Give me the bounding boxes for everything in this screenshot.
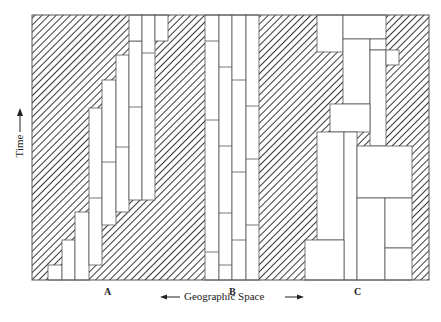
- left-arrow-icon: [160, 295, 180, 300]
- cell-region-a: [62, 240, 75, 280]
- cell-region-c: [357, 146, 412, 198]
- cell-region-a: [129, 41, 142, 200]
- cell-region-c: [343, 39, 370, 104]
- cell-region-a: [155, 15, 168, 41]
- y-axis-label: Time: [13, 131, 25, 161]
- cell-region-c: [370, 50, 386, 146]
- cell-region-a: [89, 108, 102, 265]
- diagram-canvas: [0, 0, 441, 322]
- cell-region-c: [357, 198, 385, 280]
- cell-region-c: [330, 104, 370, 132]
- cell-region-a: [75, 212, 89, 280]
- time-arrow-icon: [17, 108, 23, 132]
- right-arrow-icon: [285, 295, 304, 300]
- cell-region-a: [142, 15, 155, 200]
- cell-region-c: [305, 240, 344, 280]
- cell-region-c: [343, 15, 386, 39]
- cell-region-c: [317, 132, 344, 240]
- cell-region-b: [246, 15, 259, 280]
- cell-region-a: [48, 265, 62, 280]
- x-axis-label: Geographic Space: [184, 290, 264, 302]
- cell-region-c: [385, 198, 412, 248]
- cell-region-a: [129, 15, 142, 41]
- cell-region-c: [385, 248, 412, 280]
- cell-region-c: [386, 50, 399, 65]
- cell-region-c: [344, 132, 357, 280]
- cell-region-b: [205, 15, 219, 280]
- cell-region-c: [317, 15, 343, 52]
- cell-region-b: [219, 15, 232, 280]
- region-label-c: C: [354, 286, 361, 297]
- cell-region-a: [116, 55, 129, 212]
- region-label-a: A: [104, 286, 111, 297]
- cell-region-c: [370, 39, 386, 50]
- cell-region-a: [102, 80, 116, 225]
